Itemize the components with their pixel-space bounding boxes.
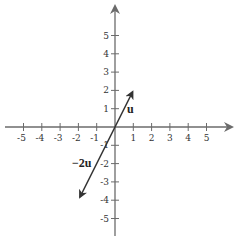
x-tick-labels: -5 -4 -3 -2 -1 1 2 3 4 5 (17, 133, 210, 143)
svg-text:-2: -2 (100, 159, 109, 169)
svg-text:5: 5 (103, 31, 109, 41)
svg-text:-3: -3 (100, 177, 109, 187)
svg-text:-4: -4 (100, 195, 109, 205)
svg-text:3: 3 (103, 67, 109, 77)
svg-text:-3: -3 (54, 133, 63, 143)
svg-text:-5: -5 (100, 214, 109, 224)
coordinate-plane: -5 -4 -3 -2 -1 1 2 3 4 5 5 4 3 2 1 -1 -2… (0, 0, 238, 242)
svg-text:5: 5 (204, 133, 210, 143)
svg-text:1: 1 (130, 133, 136, 143)
svg-text:1: 1 (103, 104, 109, 114)
svg-text:-4: -4 (35, 133, 44, 143)
svg-text:2: 2 (149, 133, 155, 143)
svg-text:4: 4 (185, 133, 191, 143)
svg-text:4: 4 (103, 49, 109, 59)
svg-text:3: 3 (167, 133, 173, 143)
svg-text:-5: -5 (17, 133, 26, 143)
vector-neg-2u-label: −2u (72, 156, 92, 170)
vector-u-label: u (127, 102, 134, 116)
svg-text:-2: -2 (72, 133, 81, 143)
svg-text:2: 2 (103, 85, 109, 95)
svg-text:-1: -1 (90, 133, 99, 143)
